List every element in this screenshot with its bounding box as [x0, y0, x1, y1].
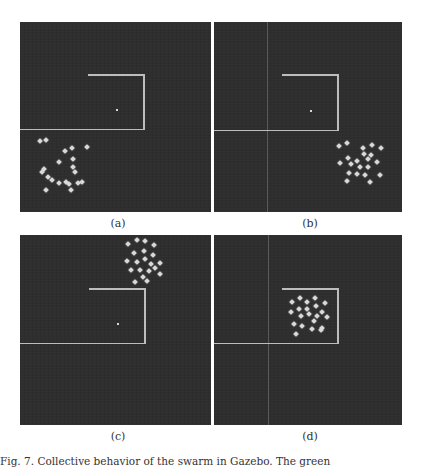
panel-label-d: (d): [290, 430, 330, 443]
arena-right-wall: [337, 74, 339, 131]
grid-vertical-line: [267, 22, 268, 212]
arena-right-wall: [337, 288, 339, 344]
arena-bottom-wall: [214, 343, 339, 344]
arena-top-wall: [282, 288, 339, 290]
panel-c: [20, 235, 211, 425]
panel-label-c: (c): [98, 430, 138, 443]
arena-bottom-wall: [20, 343, 146, 344]
panel-a: [20, 22, 211, 212]
arena-top-wall: [89, 288, 146, 290]
grid-vertical-line: [268, 235, 269, 425]
goal-marker: [117, 323, 119, 325]
arena-bottom-wall: [20, 129, 145, 130]
arena-right-wall: [144, 288, 146, 344]
arena-right-wall: [143, 74, 145, 130]
panel-label-b: (b): [290, 217, 330, 230]
arena-bottom-wall: [214, 130, 339, 131]
goal-marker: [116, 109, 118, 111]
panel-d: [214, 235, 402, 425]
panel-label-a: (a): [98, 217, 138, 230]
goal-marker: [310, 110, 312, 112]
figure-caption: Fig. 7. Collective behavior of the swarm…: [0, 455, 425, 467]
arena-top-wall: [88, 74, 145, 76]
arena-top-wall: [282, 74, 339, 76]
panel-b: [214, 22, 402, 212]
